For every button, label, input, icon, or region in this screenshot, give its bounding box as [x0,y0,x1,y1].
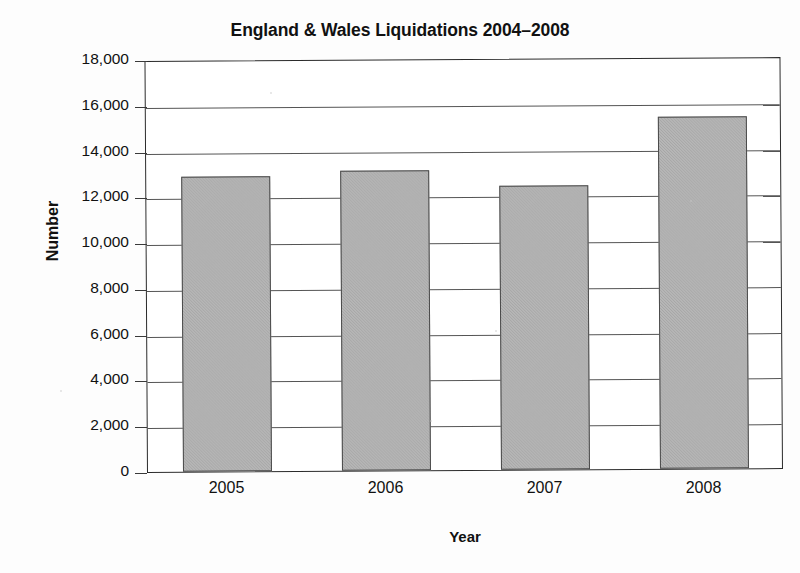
y-axis-tick-label: 18,000 [82,50,129,68]
y-axis-tick-label: 2,000 [90,416,129,434]
y-axis-tick-label: 8,000 [90,279,129,297]
bar-2006 [340,170,431,470]
chart-title: England & Wales Liquidations 2004–2008 [0,20,800,41]
y-axis-tick-mark [135,107,147,108]
gridline [146,104,780,109]
bar-2005 [181,176,272,472]
scan-speckle [495,330,497,332]
y-axis-tick-mark [135,427,147,428]
x-axis-tick-label-2008: 2008 [624,479,783,497]
x-axis-title: Year [147,528,783,545]
plot-area [144,57,783,473]
scan-speckle [430,420,432,422]
scan-speckle [270,92,272,94]
y-axis-tick-mark [135,198,147,199]
y-axis-tick-label: 6,000 [90,325,129,343]
y-axis-tick-mark [135,473,147,474]
bar-chart-figure: England & Wales Liquidations 2004–2008 N… [0,0,800,573]
y-axis-tick-group: 02,0004,0006,0008,00010,00012,00014,0001… [0,61,147,473]
x-axis-tick-label-2005: 2005 [147,479,306,497]
y-axis-tick-label: 16,000 [82,96,129,114]
y-axis-tick-mark [135,290,147,291]
y-axis-tick-label: 10,000 [82,233,129,251]
y-axis-tick-label: 0 [120,462,129,480]
y-axis-tick-mark [135,61,147,62]
x-axis-tick-group: 2005200620072008 [147,479,783,509]
scan-speckle [120,150,122,152]
y-axis-tick-mark [135,153,147,154]
y-axis-tick-mark [135,244,147,245]
scan-speckle [690,200,692,202]
scan-speckle [60,390,62,392]
bar-2008 [658,116,749,469]
bar-2007 [499,186,590,470]
y-axis-tick-mark [135,381,147,382]
y-axis-tick-label: 4,000 [90,370,129,388]
y-axis-tick-mark [135,336,147,337]
x-axis-tick-label-2007: 2007 [465,479,624,497]
x-axis-tick-label-2006: 2006 [306,479,465,497]
y-axis-tick-label: 12,000 [82,187,129,205]
